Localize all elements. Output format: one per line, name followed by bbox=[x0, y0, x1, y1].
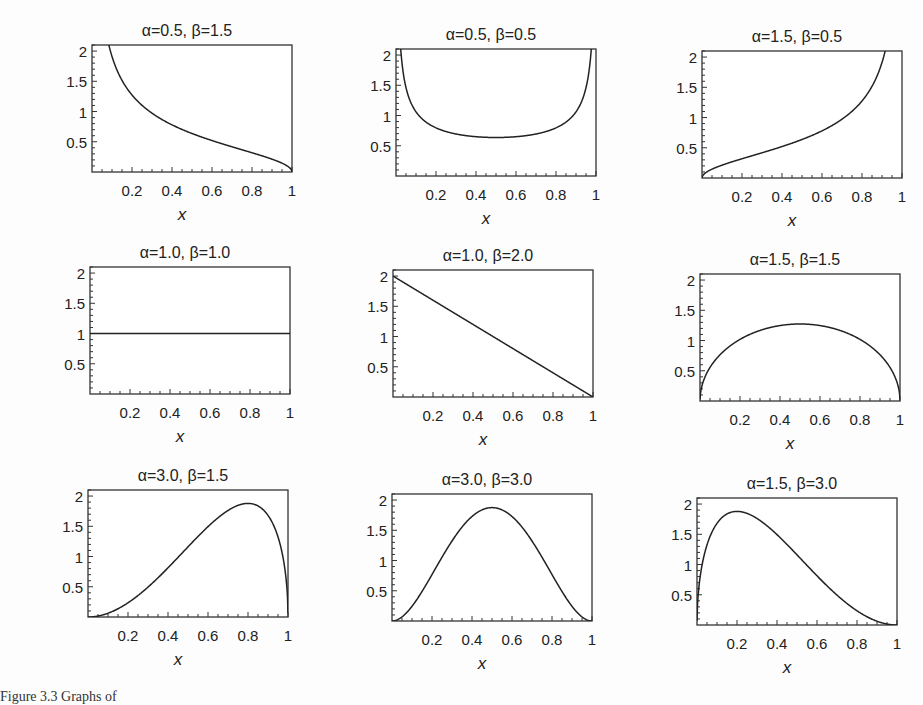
y-tick-label: 1 bbox=[687, 333, 695, 350]
x-tick-label: 0.4 bbox=[162, 182, 183, 199]
y-tick-label: 1 bbox=[383, 108, 391, 125]
x-axis-label: x bbox=[477, 654, 487, 669]
x-tick-label: 1 bbox=[592, 186, 600, 203]
plot-frame bbox=[393, 270, 593, 397]
x-tick-label: 0.4 bbox=[767, 635, 788, 652]
x-tick-label: 0.2 bbox=[426, 186, 447, 203]
y-tick-label: 2 bbox=[79, 43, 87, 60]
y-tick-label: 0.5 bbox=[671, 587, 692, 604]
x-tick-label: 0.2 bbox=[730, 411, 751, 428]
x-tick-label: 0.6 bbox=[502, 631, 523, 648]
y-tick-label: 0.5 bbox=[366, 583, 387, 600]
y-tick-label: 1 bbox=[380, 329, 388, 346]
y-tick-label: 0.5 bbox=[370, 138, 391, 155]
x-tick-label: 0.8 bbox=[852, 188, 873, 205]
x-axis-label: x bbox=[478, 430, 488, 445]
x-axis-label: x bbox=[785, 434, 795, 449]
beta-plot-0: α=0.5, β=1.50.20.40.60.810.511.52xf(x) bbox=[60, 0, 310, 224]
x-tick-label: 0.2 bbox=[423, 407, 444, 424]
x-tick-label: 0.4 bbox=[463, 407, 484, 424]
x-tick-label: 0.8 bbox=[238, 627, 259, 644]
x-tick-label: 0.8 bbox=[542, 631, 563, 648]
beta-plot-1: α=0.5, β=0.50.20.40.60.810.511.52xf(x) bbox=[364, 4, 614, 228]
y-tick-label: 1.5 bbox=[366, 522, 387, 539]
x-tick-label: 0.8 bbox=[847, 635, 868, 652]
x-tick-label: 0.6 bbox=[202, 182, 223, 199]
y-tick-label: 2 bbox=[383, 47, 391, 64]
x-tick-label: 1 bbox=[284, 627, 292, 644]
y-tick-label: 1 bbox=[77, 326, 85, 343]
x-tick-label: 0.6 bbox=[200, 404, 221, 421]
plot-frame bbox=[92, 45, 292, 172]
x-axis-label: x bbox=[787, 211, 797, 226]
y-tick-label: 0.5 bbox=[62, 579, 83, 596]
y-tick-label: 1 bbox=[684, 557, 692, 574]
x-tick-label: 1 bbox=[896, 411, 904, 428]
x-axis-label: x bbox=[175, 427, 185, 442]
y-tick-label: 1.5 bbox=[674, 302, 695, 319]
x-tick-label: 0.2 bbox=[120, 404, 141, 421]
x-tick-label: 0.2 bbox=[422, 631, 443, 648]
y-tick-label: 1 bbox=[75, 549, 83, 566]
x-tick-label: 0.8 bbox=[543, 407, 564, 424]
plot-frame bbox=[700, 274, 900, 401]
y-tick-label: 1.5 bbox=[671, 526, 692, 543]
x-tick-label: 0.2 bbox=[732, 188, 753, 205]
plot-title: α=3.0, β=3.0 bbox=[442, 471, 533, 488]
y-tick-label: 1.5 bbox=[62, 518, 83, 535]
plot-frame bbox=[88, 490, 288, 617]
x-tick-label: 0.6 bbox=[812, 188, 833, 205]
x-tick-label: 1 bbox=[893, 635, 901, 652]
plot-title: α=1.5, β=3.0 bbox=[747, 475, 838, 492]
y-tick-label: 1 bbox=[689, 110, 697, 127]
beta-plot-2: α=1.5, β=0.50.20.40.60.810.511.52xf(x) bbox=[670, 6, 920, 230]
x-tick-label: 0.4 bbox=[772, 188, 793, 205]
plot-frame bbox=[392, 494, 592, 621]
y-tick-label: 2 bbox=[684, 496, 692, 513]
x-tick-label: 0.8 bbox=[850, 411, 871, 428]
y-tick-label: 1.5 bbox=[370, 77, 391, 94]
y-tick-label: 2 bbox=[75, 488, 83, 505]
x-tick-label: 0.8 bbox=[546, 186, 567, 203]
x-tick-label: 0.4 bbox=[160, 404, 181, 421]
x-tick-label: 1 bbox=[898, 188, 906, 205]
y-tick-label: 1.5 bbox=[64, 295, 85, 312]
beta-plot-6: α=3.0, β=1.50.20.40.60.810.511.52xf(x) bbox=[56, 445, 306, 669]
plot-title: α=1.0, β=2.0 bbox=[443, 247, 534, 264]
x-axis-label: x bbox=[177, 205, 187, 220]
y-tick-label: 1.5 bbox=[66, 73, 87, 90]
plot-frame bbox=[697, 498, 897, 625]
beta-plot-8: α=1.5, β=3.00.20.40.60.810.511.52xf(x) bbox=[665, 453, 915, 677]
y-tick-label: 0.5 bbox=[367, 359, 388, 376]
x-tick-label: 1 bbox=[588, 631, 596, 648]
x-tick-label: 0.8 bbox=[240, 404, 261, 421]
x-tick-label: 0.8 bbox=[242, 182, 263, 199]
plot-title: α=0.5, β=1.5 bbox=[142, 22, 233, 39]
y-tick-label: 1.5 bbox=[367, 298, 388, 315]
y-tick-label: 1 bbox=[379, 553, 387, 570]
beta-plot-4: α=1.0, β=2.00.20.40.60.810.511.52xf(x) bbox=[361, 225, 611, 449]
plot-title: α=1.5, β=1.5 bbox=[750, 251, 841, 268]
plot-title: α=1.5, β=0.5 bbox=[752, 28, 843, 45]
y-tick-label: 0.5 bbox=[66, 134, 87, 151]
y-tick-label: 2 bbox=[77, 265, 85, 282]
plot-title: α=0.5, β=0.5 bbox=[446, 26, 537, 43]
beta-plot-5: α=1.5, β=1.50.20.40.60.810.511.52xf(x) bbox=[668, 229, 918, 453]
figure-caption: Figure 3.3 Graphs of bbox=[0, 689, 117, 705]
x-axis-label: x bbox=[481, 209, 491, 224]
plot-frame bbox=[396, 49, 596, 176]
y-tick-label: 2 bbox=[687, 272, 695, 289]
x-tick-label: 0.4 bbox=[466, 186, 487, 203]
x-tick-label: 0.4 bbox=[158, 627, 179, 644]
plot-frame bbox=[702, 51, 902, 178]
x-tick-label: 0.2 bbox=[122, 182, 143, 199]
x-axis-label: x bbox=[173, 650, 183, 665]
plot-title: α=1.0, β=1.0 bbox=[140, 244, 231, 261]
y-tick-label: 1.5 bbox=[676, 79, 697, 96]
beta-plot-3: α=1.0, β=1.00.20.40.60.810.511.52xf(x) bbox=[58, 222, 308, 446]
x-tick-label: 0.6 bbox=[807, 635, 828, 652]
plot-frame bbox=[90, 267, 290, 394]
x-tick-label: 0.2 bbox=[727, 635, 748, 652]
y-tick-label: 0.5 bbox=[64, 356, 85, 373]
x-tick-label: 0.6 bbox=[506, 186, 527, 203]
